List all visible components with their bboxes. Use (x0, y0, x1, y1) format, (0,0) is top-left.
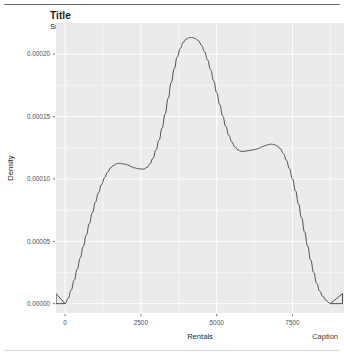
bottom-divider (4, 350, 340, 351)
x-tick-label: 0 (63, 319, 67, 326)
y-tick-label: 0.00010 (27, 175, 51, 182)
chart-caption: Caption (312, 332, 338, 341)
y-tick-label: 0.00005 (27, 238, 51, 245)
chart-page: Title Subtitle 0250050007500 0.000000.00… (0, 0, 344, 354)
y-tick-label: 0.00015 (27, 113, 51, 120)
x-axis: 0250050007500 (63, 314, 300, 326)
plot-panel (56, 23, 344, 313)
x-tick-label: 2500 (134, 319, 149, 326)
y-tick-label: 0.00020 (27, 50, 51, 57)
x-tick-label: 7500 (285, 319, 300, 326)
density-plot: 0250050007500 0.000000.000050.000100.000… (0, 0, 344, 354)
x-axis-title: Rentals (187, 332, 213, 341)
y-tick-label: 0.00000 (27, 300, 51, 307)
y-axis-title: Density (6, 155, 15, 181)
y-axis: 0.000000.000050.000100.000150.00020 (27, 50, 55, 306)
x-tick-label: 5000 (210, 319, 225, 326)
